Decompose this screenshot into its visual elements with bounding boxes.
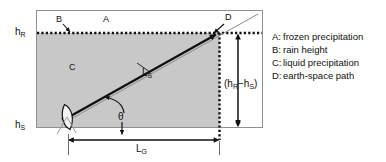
- elevation-angle-label: θ: [118, 112, 124, 122]
- slant-path-subscript: S: [148, 72, 153, 79]
- station-height-subscript: S: [21, 124, 26, 131]
- legend-text-c: liquid precipitation: [283, 56, 384, 69]
- ground-projection-label: LG: [136, 144, 147, 155]
- legend-item-d: D: earth-space path: [272, 69, 384, 82]
- legend-text-d: earth-space path: [283, 69, 384, 82]
- rain-height-callout-arrow: [63, 24, 70, 32]
- legend-text-a: frozen precipitation: [283, 30, 384, 43]
- legend-key-d: D:: [272, 69, 283, 82]
- paren-close: ): [254, 78, 257, 89]
- figure-canvas: hR hS B A C D LS LG (hR−hS) θ A: frozen …: [0, 0, 386, 162]
- height-difference-top-arrowhead: [235, 34, 241, 40]
- ground-projection-right-arrowhead: [214, 137, 220, 143]
- legend-item-c: C: liquid precipitation: [272, 56, 384, 69]
- callout-label-c: C: [69, 63, 76, 72]
- ground-projection-subscript: G: [142, 148, 147, 155]
- station-height-axis-label: hS: [15, 120, 25, 131]
- rain-height-subscript: R: [21, 31, 26, 38]
- slant-path-label: LS: [142, 68, 152, 79]
- earth-space-path-callout-arrow: [214, 24, 224, 33]
- legend-key-c: C:: [272, 56, 283, 69]
- legend-text-b: rain height: [283, 43, 384, 56]
- legend: A: frozen precipitation B: rain height C…: [272, 30, 384, 82]
- height-difference-label: (hR−hS): [224, 79, 257, 90]
- callout-label-a: A: [103, 15, 109, 24]
- rain-height-axis-label: hR: [15, 27, 26, 38]
- height-difference-bottom-arrowhead: [235, 122, 241, 128]
- callout-label-b: B: [56, 15, 62, 24]
- legend-key-b: B:: [272, 43, 283, 56]
- legend-item-b: B: rain height: [272, 43, 384, 56]
- callout-label-d: D: [225, 13, 232, 22]
- legend-item-a: A: frozen precipitation: [272, 30, 384, 43]
- legend-key-a: A:: [272, 30, 283, 43]
